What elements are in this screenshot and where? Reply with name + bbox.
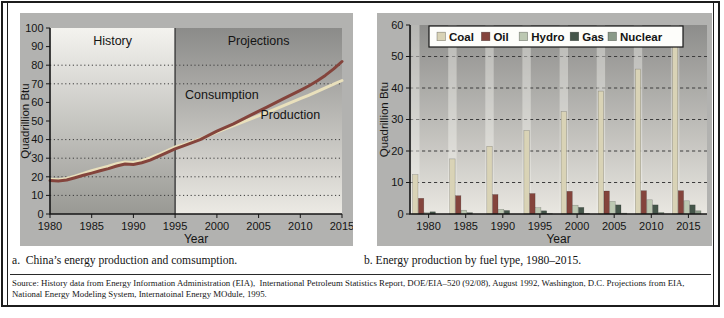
y-tick-label: 10 — [391, 176, 403, 188]
bar-hydro-2005 — [610, 201, 615, 214]
y-axis-title: Quadrillion Btu — [378, 82, 390, 157]
y-tick-label: 70 — [31, 78, 43, 90]
legend-swatch-nuclear — [608, 32, 617, 41]
line-chart-svg: HistoryProjectionsProductionConsumption0… — [20, 13, 353, 246]
y-tick-label: 40 — [31, 133, 43, 145]
x-tick-label: 2000 — [565, 220, 589, 232]
x-tick-label: 2005 — [602, 220, 626, 232]
y-tick-label: 60 — [391, 19, 403, 31]
x-tick-label: 2010 — [639, 220, 663, 232]
bar-coal-1980 — [413, 175, 418, 214]
y-tick-label: 60 — [31, 96, 43, 108]
y-tick-label: 20 — [391, 145, 403, 157]
x-tick-label: 2010 — [288, 220, 312, 232]
bar-oil-1985 — [456, 196, 461, 214]
bar-coal-1990 — [487, 146, 492, 214]
figure-frame: HistoryProjectionsProductionConsumption0… — [1, 1, 720, 307]
legend-swatch-coal — [437, 32, 446, 41]
y-axis-title: Quadrillion Btu — [20, 83, 31, 158]
bar-coal-2010 — [635, 69, 640, 214]
x-tick-label: 2000 — [205, 220, 229, 232]
bar-gas-2005 — [616, 205, 621, 214]
legend-label-nuclear: Nuclear — [620, 31, 663, 43]
y-tick-label: 0 — [37, 208, 43, 220]
caption-source-divider — [10, 274, 711, 275]
bar-coal-2015 — [672, 39, 677, 214]
x-tick-label: 1985 — [453, 220, 477, 232]
y-tick-label: 100 — [25, 22, 43, 34]
x-tick-label: 1990 — [491, 220, 515, 232]
y-tick-label: 10 — [31, 189, 43, 201]
bar-oil-1990 — [493, 195, 498, 215]
fuel-type-bar-chart: 0102030405060198019851990199520002005201… — [377, 13, 712, 250]
y-tick-label: 20 — [31, 171, 43, 183]
legend-label-hydro: Hydro — [531, 31, 564, 43]
x-tick-label: 1980 — [416, 220, 440, 232]
y-tick-label: 50 — [391, 50, 403, 62]
y-tick-label: 50 — [31, 115, 43, 127]
x-axis-title: Year — [546, 232, 570, 246]
x-axis-title: Year — [184, 232, 208, 246]
bar-coal-2005 — [598, 91, 603, 214]
bar-gas-2010 — [653, 205, 658, 214]
bar-oil-1980 — [418, 198, 423, 214]
x-tick-label: 1990 — [121, 220, 145, 232]
caption-a: a. China’s energy production and comsump… — [12, 254, 237, 267]
bar-oil-2015 — [678, 191, 683, 214]
x-tick-label: 2015 — [676, 220, 700, 232]
y-tick-label: 90 — [31, 40, 43, 52]
y-tick-label: 30 — [31, 152, 43, 164]
panel-chart-a: HistoryProjectionsProductionConsumption0… — [20, 13, 353, 246]
source-note: Source: History data from Energy Informa… — [12, 278, 713, 301]
region-label: History — [93, 34, 133, 48]
right-inner-rule — [713, 3, 714, 305]
caption-b: b. Energy production by fuel type, 1980–… — [364, 254, 581, 267]
bar-gas-2000 — [579, 207, 584, 214]
bar-oil-2005 — [604, 191, 609, 214]
x-tick-label: 2015 — [330, 220, 353, 232]
left-inner-rule — [7, 3, 8, 305]
legend-label-coal: Coal — [449, 31, 474, 43]
bar-hydro-2015 — [684, 201, 689, 214]
legend-label-oil: Oil — [493, 31, 508, 43]
china-energy-line-chart: HistoryProjectionsProductionConsumption0… — [20, 13, 353, 250]
y-tick-label: 80 — [31, 59, 43, 71]
bar-oil-2010 — [641, 191, 646, 214]
y-tick-label: 40 — [391, 82, 403, 94]
x-tick-label: 1980 — [38, 220, 62, 232]
series-label-consumption: Consumption — [185, 88, 259, 102]
panel-chart-b: 0102030405060198019851990199520002005201… — [377, 13, 712, 246]
legend-swatch-oil — [481, 32, 490, 41]
x-tick-label: 1995 — [163, 220, 187, 232]
legend-swatch-hydro — [519, 32, 528, 41]
history-region — [50, 28, 175, 214]
bar-coal-1985 — [450, 159, 455, 214]
x-tick-label: 1985 — [79, 220, 103, 232]
bar-chart-svg: 0102030405060198019851990199520002005201… — [377, 13, 712, 246]
x-tick-label: 1995 — [528, 220, 552, 232]
x-tick-label: 2005 — [246, 220, 270, 232]
bar-oil-2000 — [567, 191, 572, 214]
region-label: Projections — [228, 34, 290, 48]
y-tick-label: 30 — [391, 113, 403, 125]
bar-hydro-1995 — [536, 208, 541, 214]
bar-hydro-2010 — [647, 200, 652, 214]
legend-label-gas: Gas — [582, 31, 604, 43]
legend-swatch-gas — [570, 32, 579, 41]
bar-oil-1995 — [530, 194, 535, 215]
bar-gas-2015 — [690, 205, 695, 214]
bar-hydro-2000 — [573, 205, 578, 214]
bar-coal-1995 — [524, 131, 529, 215]
bar-coal-2000 — [561, 112, 566, 214]
y-tick-label: 0 — [397, 208, 403, 220]
series-label-production: Production — [260, 108, 320, 122]
